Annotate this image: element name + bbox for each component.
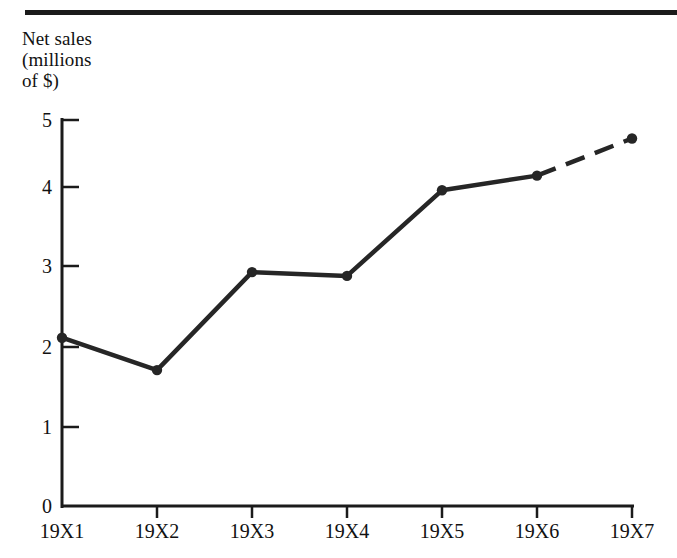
y-tick-label-1: 1	[26, 417, 52, 437]
y-tick-label-5: 5	[26, 110, 52, 130]
x-tick-label-19x1: 19X1	[17, 521, 107, 541]
x-tick-label-19x4: 19X4	[302, 521, 392, 541]
x-tick-label-19x2: 19X2	[112, 521, 202, 541]
x-tick-label-19x6: 19X6	[492, 521, 582, 541]
y-tick-label-2: 2	[26, 337, 52, 357]
data-point-19x2	[152, 365, 162, 375]
data-point-19x1	[57, 333, 67, 343]
x-tick-label-19x7: 19X7	[587, 521, 677, 541]
data-line-solid	[62, 176, 537, 371]
data-line-dashed-projection	[537, 139, 632, 176]
data-point-19x6	[532, 170, 542, 180]
y-axis-ticks	[62, 120, 79, 427]
data-point-19x5	[437, 185, 447, 195]
x-axis-ticks	[157, 506, 632, 518]
y-tick-label-3: 3	[26, 256, 52, 276]
data-point-19x3	[247, 267, 257, 277]
y-tick-label-4: 4	[26, 177, 52, 197]
line-chart	[0, 0, 677, 558]
data-point-19x7	[627, 133, 637, 143]
y-tick-label-0: 0	[26, 496, 52, 516]
data-point-19x4	[342, 271, 352, 281]
x-tick-label-19x5: 19X5	[397, 521, 487, 541]
x-tick-label-19x3: 19X3	[207, 521, 297, 541]
chart-svg	[0, 0, 677, 558]
